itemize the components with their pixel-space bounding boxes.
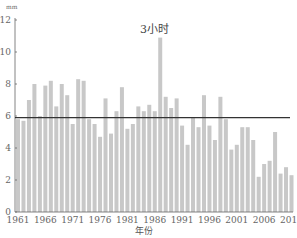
bar-2009 [279, 174, 283, 212]
x-tick-label: 1996 [198, 215, 221, 225]
bar-2001 [235, 145, 239, 212]
x-tick-label: 1991 [171, 215, 194, 225]
y-tick-label: 12 [0, 15, 11, 25]
x-tick-label: 2011 [280, 215, 297, 225]
bar-1969 [60, 84, 64, 212]
bar-1976 [98, 137, 102, 212]
bar-2000 [229, 150, 233, 212]
bar-2002 [240, 127, 244, 212]
bar-2011 [290, 175, 294, 212]
bar-1966 [43, 86, 47, 212]
bar-1984 [142, 111, 146, 212]
bar-1981 [125, 129, 129, 212]
bar-1968 [54, 106, 58, 212]
x-axis-label: 年份 [135, 225, 153, 236]
bar-1993 [191, 118, 195, 212]
y-tick-label: 6 [5, 111, 11, 121]
bar-1994 [197, 127, 201, 212]
x-tick-label: 1976 [89, 215, 112, 225]
bar-1964 [32, 84, 36, 212]
bar-1980 [120, 87, 124, 212]
bar-chart: 024681012 196119661971197619811986199119… [0, 0, 297, 238]
bar-2005 [257, 177, 261, 212]
bar-1979 [114, 111, 118, 212]
bar-1978 [109, 134, 113, 212]
bar-1986 [153, 111, 157, 212]
x-axis: 1961196619711976198119861991199620012006… [7, 212, 297, 225]
x-tick-label: 1986 [143, 215, 166, 225]
bar-1975 [93, 124, 97, 212]
bar-1982 [131, 124, 135, 212]
y-tick-label: 10 [0, 47, 11, 57]
bar-1995 [202, 95, 206, 212]
x-tick-label: 1966 [34, 215, 57, 225]
bar-1999 [224, 119, 228, 212]
chart-title: 3小时 [140, 23, 169, 36]
bar-2003 [246, 127, 250, 212]
x-tick-label: 2001 [225, 215, 248, 225]
bar-2010 [284, 167, 288, 212]
bar-1991 [180, 126, 184, 212]
bar-1998 [218, 97, 222, 212]
bar-1972 [76, 79, 80, 212]
x-tick-label: 2006 [253, 215, 276, 225]
bar-1962 [21, 121, 25, 212]
bar-1965 [38, 116, 42, 212]
bar-2008 [273, 132, 277, 212]
bar-2007 [268, 161, 272, 212]
bar-1967 [49, 81, 53, 212]
y-tick-label: 2 [5, 175, 11, 185]
x-tick-label: 1981 [116, 215, 139, 225]
bar-1970 [65, 95, 69, 212]
bar-1973 [82, 81, 86, 212]
bar-1988 [164, 97, 168, 212]
bar-1990 [175, 98, 179, 212]
bar-1974 [87, 119, 91, 212]
y-axis-unit: mm [6, 3, 18, 10]
bar-1989 [169, 108, 173, 212]
bar-1987 [158, 38, 162, 212]
y-axis: 024681012 [0, 15, 17, 217]
y-tick-label: 4 [5, 143, 11, 153]
y-tick-label: 8 [5, 79, 11, 89]
bar-1961 [16, 119, 20, 212]
bars-group [16, 38, 294, 212]
bar-1977 [104, 98, 108, 212]
bar-1992 [186, 145, 190, 212]
bar-2004 [251, 140, 255, 212]
bar-1997 [213, 140, 217, 212]
bar-1963 [27, 100, 31, 212]
bar-1983 [136, 106, 140, 212]
bar-1971 [71, 124, 75, 212]
bar-2006 [262, 164, 266, 212]
x-tick-label: 1971 [61, 215, 84, 225]
bar-1985 [147, 105, 151, 212]
bar-1996 [207, 126, 211, 212]
x-tick-label: 1961 [7, 215, 30, 225]
